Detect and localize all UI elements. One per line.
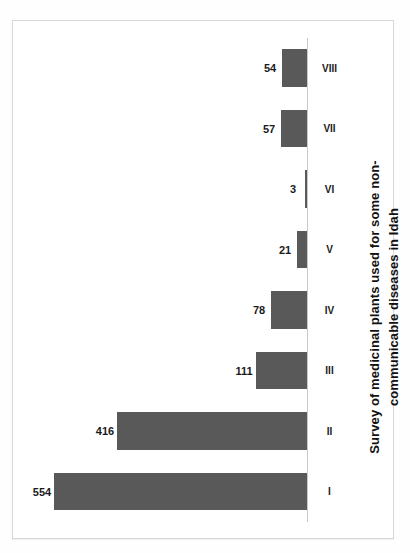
bar-rect[interactable] — [297, 231, 307, 269]
category-tick-VIII: VIII — [324, 38, 335, 99]
category-tick-VII: VII — [324, 98, 335, 159]
category-label: IV — [324, 304, 333, 315]
bar-value-label: 54 — [264, 62, 276, 74]
category-tick-IV: IV — [324, 280, 335, 341]
bar-value-label: 3 — [290, 183, 296, 195]
bar-rect[interactable] — [117, 412, 307, 450]
bar-value-label: 21 — [279, 243, 291, 255]
bar-slot-II[interactable]: 416 — [42, 401, 307, 462]
bar-value-label: 554 — [33, 485, 51, 497]
category-label: VII — [323, 123, 335, 134]
bar-value-label: 57 — [263, 122, 275, 134]
bar-rect[interactable] — [54, 473, 307, 511]
category-tick-VI: VI — [324, 159, 335, 220]
bar-value-label: 78 — [253, 304, 265, 316]
bar-slot-VII[interactable]: 57 — [42, 98, 307, 159]
category-tick-I: I — [324, 461, 335, 522]
plot-area: 554 416 111 78 — [38, 30, 368, 530]
category-label: VIII — [321, 62, 336, 73]
category-label: II — [326, 425, 332, 436]
category-label: I — [328, 486, 331, 497]
category-label: VI — [324, 183, 333, 194]
chart-title: Survey of medicinal plants used for some… — [358, 142, 410, 472]
category-tick-III: III — [324, 340, 335, 401]
figure-frame: 554 416 111 78 — [12, 20, 394, 539]
bar-rect[interactable] — [305, 170, 307, 208]
chart-title-line-2: communicable diseases in Idah — [385, 208, 404, 406]
chart-title-line-1: Survey of medicinal plants used for some… — [366, 160, 385, 453]
category-axis-line — [307, 38, 308, 522]
bar-slot-VI[interactable]: 3 — [42, 159, 307, 220]
bar-rect[interactable] — [256, 352, 307, 390]
bar-value-label: 416 — [96, 425, 114, 437]
bars-layer: 554 416 111 78 — [42, 38, 307, 522]
bar-slot-VIII[interactable]: 54 — [42, 38, 307, 99]
category-tick-V: V — [324, 219, 335, 280]
category-tick-labels: I II III IV V VI VII VIII — [310, 38, 348, 522]
bar-rect[interactable] — [271, 291, 307, 329]
bar-slot-III[interactable]: 111 — [42, 340, 307, 401]
bar-value-label: 111 — [236, 364, 253, 376]
category-tick-II: II — [324, 401, 335, 462]
bar-rect[interactable] — [281, 110, 307, 148]
category-label: III — [325, 365, 333, 376]
bar-slot-IV[interactable]: 78 — [42, 280, 307, 341]
figure-root: 554 416 111 78 — [0, 0, 410, 553]
chart-canvas: 554 416 111 78 — [38, 30, 368, 530]
bar-slot-V[interactable]: 21 — [42, 219, 307, 280]
bar-rect[interactable] — [282, 49, 307, 87]
bar-slot-I[interactable]: 554 — [42, 461, 307, 522]
category-label: V — [326, 244, 333, 255]
